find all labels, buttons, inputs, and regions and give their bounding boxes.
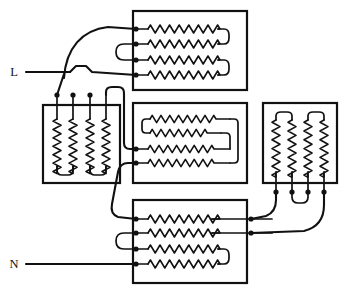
bridge-top-rows-3-4	[218, 60, 229, 75]
fold-middle-right-1-top	[230, 119, 238, 163]
coil-middle-row1	[150, 115, 230, 122]
dot-bottom-row2	[133, 230, 138, 235]
wire-right-col1-to-bottom-row1	[251, 192, 276, 219]
coil-bottom-2	[148, 229, 220, 237]
dot-bottom-feed-1	[248, 216, 253, 221]
fold-middle-left-1-2	[142, 119, 150, 133]
coil-right-1	[272, 120, 280, 177]
coil-top-2	[148, 40, 220, 48]
coil-bottom-1	[148, 215, 220, 223]
dot-top-row2	[133, 41, 138, 46]
wire-L-to-top-row1	[64, 27, 136, 78]
dot-left-col3	[87, 92, 92, 97]
wiring-diagram-svg: L N	[0, 0, 347, 295]
dot-right-col1	[273, 189, 278, 194]
middle-serpentine-coils	[136, 115, 238, 166]
coil-middle-row3	[148, 145, 230, 152]
dot-left-col2	[70, 92, 75, 97]
label-neutral-terminal: N	[9, 257, 18, 271]
dot-left-col1	[54, 92, 59, 97]
bottom-bank-coils	[116, 215, 272, 268]
coil-right-2	[288, 120, 296, 177]
wire-right-col4-to-bottom-row2	[251, 192, 324, 233]
bridge-top-rows-1-2	[218, 29, 229, 44]
bridge-right-terminals-2-3	[292, 192, 308, 203]
coil-bottom-3	[148, 245, 220, 253]
dot-right-col2	[289, 189, 294, 194]
dot-bottom-row3	[133, 246, 138, 251]
coil-middle-row2	[150, 129, 221, 136]
coil-bottom-4	[148, 260, 220, 268]
dot-right-col3	[305, 189, 310, 194]
coil-top-3	[148, 56, 220, 64]
wiring-diagram-canvas: L N	[0, 0, 347, 295]
bridge-bottom-rows-3-4	[218, 249, 229, 264]
dot-top-row1	[133, 26, 138, 31]
dot-bottom-row1	[133, 216, 138, 221]
terminal-labels: L N	[9, 65, 18, 271]
dot-mid-row4	[133, 160, 138, 165]
bridge-right-cols-1-2	[276, 112, 292, 120]
box-top-element-bank	[133, 11, 247, 90]
box-bottom-element-bank	[133, 200, 247, 283]
coil-top-1	[148, 25, 220, 33]
dot-right-col4	[321, 189, 326, 194]
label-live-terminal: L	[10, 65, 18, 79]
dot-top-row4	[133, 72, 138, 77]
coil-right-3	[304, 120, 312, 177]
wire-L-to-top-row4	[70, 66, 136, 75]
dot-bottom-feed-2	[248, 230, 253, 235]
right-bank-coils	[272, 112, 328, 203]
wire-L-to-left-col1	[57, 74, 64, 95]
coil-middle-row4	[148, 159, 230, 166]
left-bank-coils	[53, 95, 110, 175]
coil-right-4	[320, 120, 328, 177]
coil-top-4	[148, 71, 220, 79]
bridge-right-cols-3-4	[308, 112, 324, 120]
dot-mid-row3	[133, 146, 138, 151]
dot-top-row3	[133, 57, 138, 62]
fold-middle-right-2-3	[221, 133, 230, 149]
dot-bottom-row4	[133, 261, 138, 266]
